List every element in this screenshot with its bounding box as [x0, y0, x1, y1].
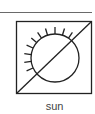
symbol-label: sun — [16, 100, 93, 112]
sun-crossed-icon — [0, 0, 95, 114]
diagonal-strike — [17, 22, 92, 94]
